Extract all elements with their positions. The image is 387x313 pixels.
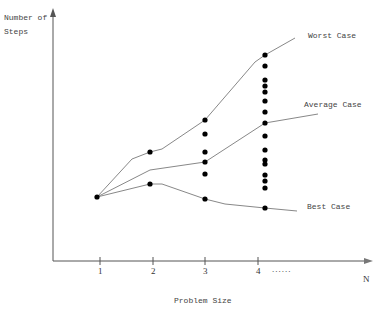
diagram-canvas bbox=[0, 0, 387, 313]
x-axis-label: Problem Size bbox=[174, 297, 232, 305]
worst-case-label: Worst Case bbox=[308, 32, 356, 40]
average-case-label: Average Case bbox=[304, 101, 362, 109]
y-axis-label-line2: Steps bbox=[4, 28, 28, 36]
x-tick-4: 4 bbox=[256, 267, 261, 276]
y-axis-label-line1: Number of bbox=[4, 14, 47, 22]
complexity-diagram: Number of Steps Worst Case Average Case … bbox=[0, 0, 387, 313]
x-tick-1: 1 bbox=[98, 267, 103, 276]
x-tick-3: 3 bbox=[203, 267, 208, 276]
axes bbox=[53, 12, 370, 261]
y-axis-arrow-icon bbox=[50, 8, 56, 17]
x-axis-arrow-icon bbox=[364, 258, 373, 264]
best-case-label: Best Case bbox=[307, 203, 350, 211]
data-points bbox=[94, 52, 267, 210]
x-axis-end-label: N bbox=[363, 275, 370, 284]
x-tick-2: 2 bbox=[151, 267, 156, 276]
average-case-curve bbox=[97, 114, 318, 197]
x-axis-ellipsis: ...... bbox=[272, 265, 292, 274]
